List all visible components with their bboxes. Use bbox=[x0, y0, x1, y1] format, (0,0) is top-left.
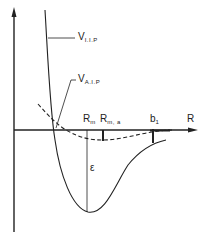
y-axis bbox=[12, 7, 17, 232]
v-aip-subscript: A.I.P bbox=[85, 79, 101, 85]
r-m-label: Rm bbox=[83, 114, 96, 127]
v-iip-label: VI.I.P bbox=[78, 32, 98, 45]
r-ma-subscript: m, a bbox=[107, 119, 121, 125]
r-ma-label: Rm, a bbox=[100, 114, 121, 127]
r-m-subscript: m bbox=[90, 119, 96, 125]
v-aip-leader bbox=[56, 80, 76, 128]
v-aip-name: V bbox=[78, 73, 85, 84]
v-aip-label: VA.I.P bbox=[78, 74, 100, 87]
b1-label: b1 bbox=[150, 114, 159, 127]
v-iip-subscript: I.I.P bbox=[85, 37, 98, 43]
v-iip-curve bbox=[45, 10, 166, 212]
epsilon-label: ε bbox=[90, 163, 94, 173]
b1-subscript: 1 bbox=[156, 119, 160, 125]
x-axis-label: R bbox=[187, 114, 194, 124]
v-iip-name: V bbox=[78, 31, 85, 42]
